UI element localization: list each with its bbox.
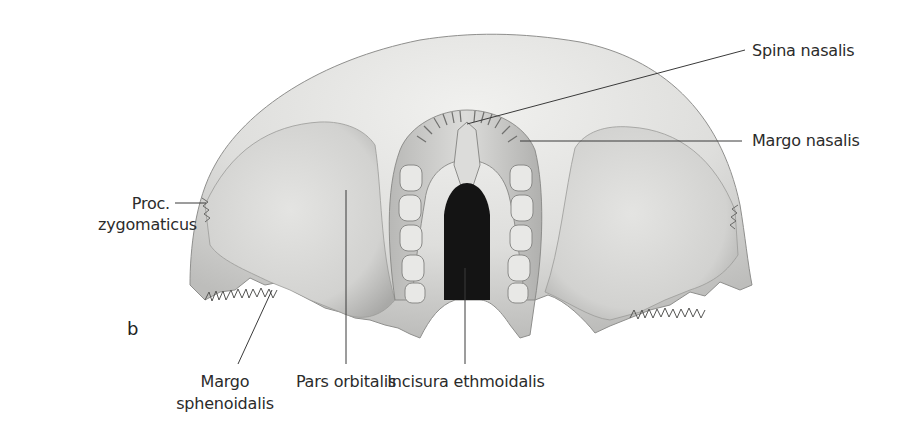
label-margo-sphenoidalis-line2: sphenoidalis bbox=[165, 393, 285, 414]
label-spina-nasalis: Spina nasalis bbox=[752, 40, 855, 61]
label-proc-zygomaticus-line2: zygomaticus bbox=[70, 214, 197, 235]
incisura-ethmoidalis-shape bbox=[444, 183, 490, 300]
label-margo-sphenoidalis-line1: Margo bbox=[165, 371, 285, 392]
leader-margo-sphenoidalis bbox=[238, 290, 272, 364]
anatomical-figure: Spina nasalis Margo nasalis Proc. zygoma… bbox=[0, 0, 912, 434]
label-incisura-ethmoidalis: Incisura ethmoidalis bbox=[385, 371, 547, 392]
label-proc-zygomaticus-line1: Proc. bbox=[100, 193, 170, 214]
panel-letter: b bbox=[127, 318, 138, 339]
label-margo-nasalis: Margo nasalis bbox=[752, 130, 860, 151]
